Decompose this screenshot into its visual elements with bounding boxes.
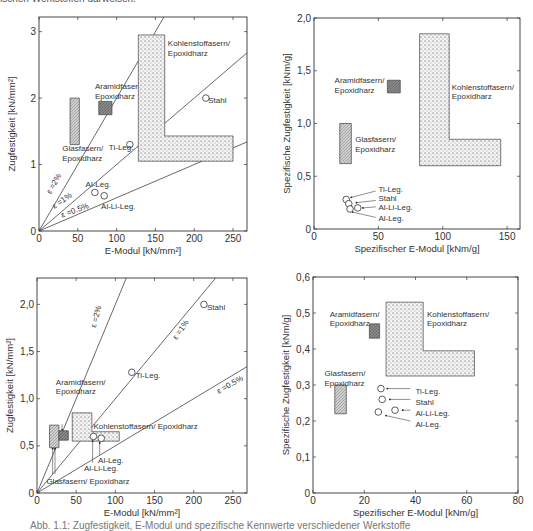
x-tick-label: 250	[225, 495, 242, 506]
data-point	[375, 409, 382, 416]
data-point	[347, 206, 354, 213]
chart-specific-strength-vs-specific-modulus-zoomed: Glasfasern/EpoxidharzAramidfasern/Epoxid…	[280, 272, 524, 519]
strain-line-label: ε =2%	[45, 172, 64, 196]
point-label: Al-Leg.	[98, 456, 123, 465]
pointer-head	[350, 196, 352, 198]
x-tick-label: 100	[107, 495, 124, 506]
y-tick-label: 0,5	[296, 308, 310, 319]
y-axis-title: Spezifische Zugfestigkeit [kNm/g]	[281, 53, 292, 193]
region-label: Glasfasern/	[62, 144, 104, 153]
y-axis-title: Zugfestigkeit [kN/mm²]	[4, 338, 15, 433]
data-point	[354, 205, 361, 212]
point-label: Ti-Leg.	[109, 143, 134, 152]
point-label: Ti-Leg.	[416, 387, 441, 396]
figure-caption: Abb. 1.1: Zugfestigkeit, E-Modul und spe…	[30, 520, 410, 531]
y-tick-label: 1,5	[20, 346, 34, 357]
x-tick-label: 0	[36, 233, 42, 244]
y-tick-label: 2,0	[20, 299, 34, 310]
y-tick-label: 0,6	[296, 272, 310, 283]
y-tick-label: 1,0	[20, 393, 34, 404]
pointer-line	[353, 212, 376, 217]
point-label: Al-Leg.	[416, 420, 441, 429]
data-point	[129, 369, 136, 376]
pointer-head	[92, 440, 94, 442]
x-tick-label: 60	[461, 495, 473, 506]
y-tick-label: 2	[30, 93, 36, 104]
pointer-head	[402, 409, 404, 411]
x-tick-label: 50	[71, 495, 83, 506]
y-tick-label: 3	[30, 26, 36, 37]
region-label: Glasfasern/	[355, 135, 397, 144]
material-region	[335, 385, 347, 414]
material-region	[59, 431, 68, 440]
pointer-line	[386, 416, 410, 421]
point-label: Al-Li-Leg.	[378, 203, 412, 212]
pointer-head	[52, 448, 54, 450]
y-tick-label: 0,1	[296, 452, 310, 463]
y-tick-label: 2,0	[297, 13, 311, 24]
region-label: Kohlenstoffasern/	[427, 310, 490, 319]
data-point	[379, 396, 386, 403]
region-label: Glasfasern/ Epoxidharz	[46, 477, 129, 486]
y-tick-label: 0	[30, 226, 36, 237]
y-tick-label: 0	[304, 488, 310, 499]
x-tick-label: 50	[72, 233, 84, 244]
x-axis-title: Spezifischer E-Modul [kNm/g]	[354, 243, 479, 254]
pointer-head	[54, 448, 56, 450]
y-tick-label: 0,2	[296, 416, 310, 427]
x-tick-label: 250	[225, 233, 242, 244]
point-label: Al-Li-Leg.	[101, 202, 135, 211]
material-region	[99, 101, 112, 114]
y-tick-label: 0,5	[20, 440, 34, 451]
pointer-line	[363, 207, 376, 208]
y-tick-label: 0	[28, 488, 34, 499]
x-tick-label: 0	[34, 495, 40, 506]
point-label: Al-Li-Leg.	[416, 409, 450, 418]
point-label: Stahl	[416, 398, 434, 407]
region-label: Epoxidharz	[330, 319, 370, 328]
region-label: Kohlenstoffasern/ Epoxidharz	[93, 422, 197, 431]
x-tick-label: 150	[146, 495, 163, 506]
point-label: Stahl	[207, 303, 225, 312]
region-label: Aramidfasern/	[330, 310, 381, 319]
pointer-head	[389, 399, 391, 401]
material-region	[70, 98, 79, 145]
region-label: Kohlenstoffasern/	[168, 39, 231, 48]
region-label: Epoxidharz	[168, 49, 208, 58]
data-point	[392, 407, 399, 414]
chart-tensile-strength-vs-modulus-full: ε =2%ε =1%ε =0.5%Glasfasern/EpoxidharzAr…	[6, 0, 247, 256]
y-tick-label: 0,3	[296, 380, 310, 391]
x-tick-label: 20	[359, 495, 371, 506]
material-region	[369, 324, 379, 338]
x-axis-title: Spezifischer E-Modul [kNm/g]	[353, 507, 478, 518]
x-tick-label: 0	[311, 231, 317, 242]
pointer-head	[356, 202, 358, 204]
y-tick-label: 0	[305, 224, 311, 235]
region-label: Kohlenstoffasern/	[452, 83, 515, 92]
point-label: Stahl	[208, 96, 226, 105]
x-tick-label: 50	[373, 231, 385, 242]
pointer-head	[99, 442, 101, 444]
pointer-head	[385, 415, 387, 417]
data-point	[101, 192, 108, 199]
point-label: Ti-Leg.	[136, 371, 161, 380]
y-axis-title: Spezifische Zugfestigkeit [kNm/g]	[280, 315, 291, 455]
x-tick-label: 200	[185, 495, 202, 506]
x-tick-label: 40	[410, 495, 422, 506]
pointer-line	[356, 201, 375, 203]
chart-tensile-strength-vs-modulus-zoomed: ε =2%ε =1%ε =0.5%Glasfasern/ EpoxidharzA…	[4, 0, 247, 518]
region-label: Epoxidharz	[452, 92, 492, 101]
region-label: Epoxidharz	[335, 86, 375, 95]
region-label: Epoxidharz	[355, 145, 395, 154]
region-label: Epoxidharz	[325, 379, 365, 388]
pointer-head	[362, 207, 364, 209]
x-tick-label: 150	[147, 233, 164, 244]
y-tick-label: 1	[30, 159, 36, 170]
region-label: Aramidfasern/	[95, 82, 146, 91]
y-tick-label: 0,4	[296, 344, 310, 355]
region-label: Epoxidharz	[95, 92, 135, 101]
x-tick-label: 150	[499, 231, 516, 242]
y-tick-label: 0,5	[297, 171, 311, 182]
x-axis-title: E-Modul [kN/mm²]	[105, 245, 182, 256]
data-point	[90, 433, 97, 440]
